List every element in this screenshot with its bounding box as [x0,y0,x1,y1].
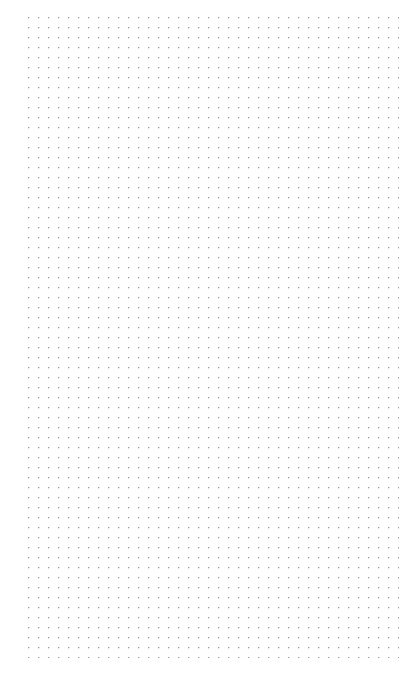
dot-grid-page: Dot Grid Page [0,0,413,675]
dot-grid [28,17,399,658]
